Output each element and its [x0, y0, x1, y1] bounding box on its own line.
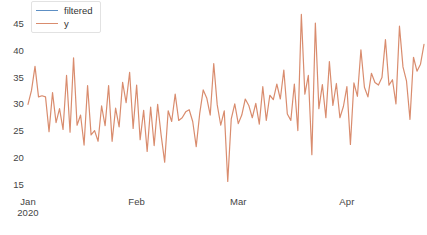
- x-tick-feb: Feb: [117, 196, 157, 207]
- y-tick-20: 20: [2, 152, 24, 163]
- legend-swatch-filtered: [36, 10, 58, 11]
- x-tick-month: Mar: [218, 196, 258, 207]
- x-tick-year: 2020: [8, 207, 48, 218]
- legend: filtered y: [31, 1, 101, 33]
- y-tick-15: 15: [2, 179, 24, 190]
- legend-item-filtered[interactable]: filtered: [36, 5, 93, 16]
- legend-swatch-y: [36, 23, 58, 24]
- y-tick-35: 35: [2, 72, 24, 83]
- x-tick-apr: Apr: [327, 196, 367, 207]
- y-tick-45: 45: [2, 18, 24, 29]
- legend-label-y: y: [64, 18, 69, 29]
- x-tick-jan: Jan2020: [8, 196, 48, 218]
- x-tick-month: Apr: [327, 196, 367, 207]
- y-tick-25: 25: [2, 125, 24, 136]
- legend-label-filtered: filtered: [64, 5, 93, 16]
- y-tick-40: 40: [2, 45, 24, 56]
- x-tick-month: Feb: [117, 196, 157, 207]
- x-tick-mar: Mar: [218, 196, 258, 207]
- y-tick-30: 30: [2, 98, 24, 109]
- legend-item-y[interactable]: y: [36, 18, 93, 29]
- series-line-y: [28, 14, 424, 181]
- line-chart: 15202530354045 Jan2020FebMarApr filtered…: [0, 0, 427, 235]
- x-tick-month: Jan: [8, 196, 48, 207]
